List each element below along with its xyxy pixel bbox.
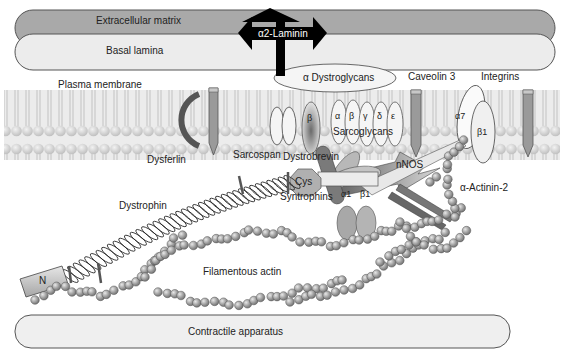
syntrophins-label: Syntrophins (280, 192, 333, 202)
sarcoglycan-epsilon-label: ε (391, 112, 395, 121)
sarcoglycans-shape (331, 100, 403, 146)
cys-label: Cys (295, 177, 312, 187)
dystrobrevin-label: Dystrobrevin (283, 152, 339, 162)
caveolin-3-label: Caveolin 3 (408, 72, 455, 82)
contractile-apparatus-label: Contractile apparatus (188, 327, 283, 337)
syntrophin-alpha1-label: α1 (341, 190, 351, 199)
filamentous-actin-label: Filamentous actin (203, 267, 281, 277)
sarcoglycan-beta-label: β (349, 112, 354, 121)
dysferlin-label: Dysferlin (147, 155, 186, 165)
sarcoglycans-label: Sarcoglycans (333, 127, 393, 137)
beta-dystroglycan-shape (302, 102, 320, 154)
integrin-beta1-label: β1 (477, 128, 487, 137)
sarcospan-label: Sarcospan (233, 150, 281, 160)
laminin-label: α2-Laminin (258, 29, 308, 39)
extracellular-matrix-label: Extracellular matrix (96, 16, 181, 26)
alpha-dystroglycans-label: α Dystroglycans (303, 73, 374, 83)
sarcoglycan-delta-label: δ (377, 112, 382, 121)
transmembrane-peg-right (523, 90, 533, 157)
syntrophin-beta1-label: β1 (360, 190, 370, 199)
integrins-label: Integrins (481, 72, 519, 82)
transmembrane-peg-left (209, 88, 218, 155)
beta-dystroglycan-label: β (307, 114, 312, 123)
basal-lamina-label: Basal lamina (106, 46, 163, 56)
sarcoglycan-gamma-label: γ (363, 112, 368, 121)
n-terminal-label: N (39, 276, 46, 286)
dystrophin-complex-diagram: Extracellular matrix Basal lamina α2-Lam… (0, 0, 565, 355)
sarcoglycan-alpha-label: α (335, 112, 340, 121)
nnos-label: nNOS (396, 160, 423, 170)
plasma-membrane-label: Plasma membrane (58, 80, 142, 90)
dystrophin-label: Dystrophin (119, 201, 167, 211)
alpha-actinin-2-label: α-Actinin-2 (460, 183, 508, 193)
integrin-alpha7-label: α7 (455, 112, 465, 121)
caveolin-3-shape (411, 90, 421, 157)
